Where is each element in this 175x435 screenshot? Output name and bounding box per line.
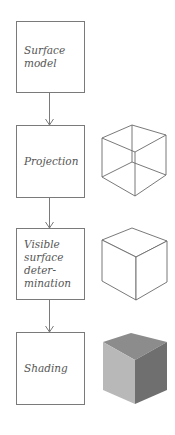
diagram-graphics bbox=[0, 0, 175, 435]
wireframe-cube-icon bbox=[102, 125, 166, 196]
shaded-cube-icon bbox=[103, 333, 167, 404]
arrow-down-icon bbox=[46, 93, 54, 125]
arrow-down-icon bbox=[46, 198, 54, 228]
pipeline-diagram: Surface model Projection Visible surface… bbox=[0, 0, 175, 435]
hidden-line-cube-icon bbox=[102, 228, 167, 300]
flow-arrows bbox=[46, 93, 54, 332]
arrow-down-icon bbox=[46, 300, 54, 332]
